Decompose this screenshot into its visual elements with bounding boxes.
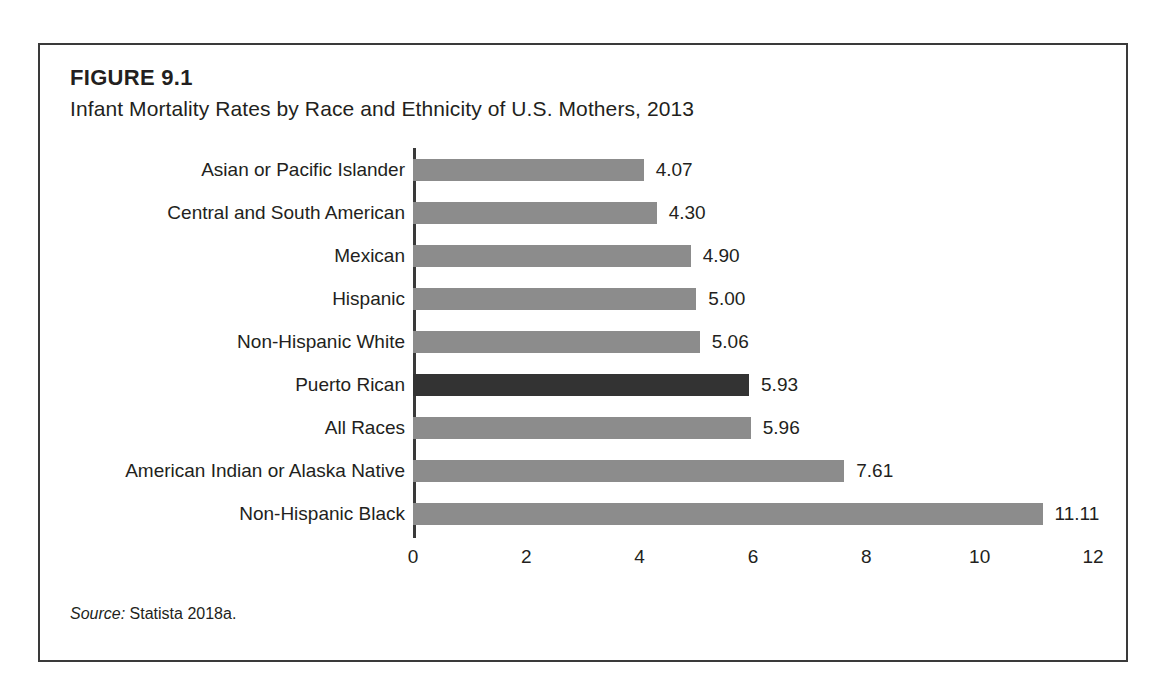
category-label-row: Central and South American	[70, 191, 405, 234]
category-label-row: Hispanic	[70, 277, 405, 320]
bar-value-label: 4.30	[669, 202, 706, 224]
bar-row[interactable]: 4.90	[413, 234, 740, 277]
bar-row[interactable]: 5.00	[413, 277, 745, 320]
category-label-row: All Races	[70, 406, 405, 449]
x-axis-tick-label: 10	[969, 546, 990, 568]
bar[interactable]	[413, 503, 1043, 525]
category-label: Asian or Pacific Islander	[201, 148, 405, 191]
bar[interactable]	[413, 202, 657, 224]
figure-title: Infant Mortality Rates by Race and Ethni…	[70, 97, 694, 121]
category-label: Hispanic	[332, 277, 405, 320]
bar[interactable]	[413, 288, 696, 310]
category-label-row: Non-Hispanic Black	[70, 492, 405, 535]
bar-row[interactable]: 7.61	[413, 449, 893, 492]
bar-highlighted[interactable]	[413, 374, 749, 396]
bar-value-label: 7.61	[856, 460, 893, 482]
figure-number: FIGURE 9.1	[70, 65, 193, 91]
bar-value-label: 5.96	[763, 417, 800, 439]
category-label: Puerto Rican	[295, 363, 405, 406]
figure-content: FIGURE 9.1 Infant Mortality Rates by Rac…	[40, 45, 1126, 660]
x-axis: 024681012	[413, 538, 1093, 578]
category-label-row: Asian or Pacific Islander	[70, 148, 405, 191]
bar[interactable]	[413, 331, 700, 353]
x-axis-tick-label: 2	[521, 546, 532, 568]
bar[interactable]	[413, 417, 751, 439]
bars-area: 4.074.304.905.005.065.935.967.6111.11	[413, 148, 1093, 535]
source-text: Statista 2018a.	[130, 605, 237, 622]
x-axis-tick-label: 6	[748, 546, 759, 568]
category-label-column: Asian or Pacific IslanderCentral and Sou…	[70, 148, 405, 535]
bar-row[interactable]: 4.07	[413, 148, 693, 191]
bar-value-label: 4.90	[703, 245, 740, 267]
bar-value-label: 4.07	[656, 159, 693, 181]
bar-row[interactable]: 11.11	[413, 492, 1099, 535]
category-label: All Races	[325, 406, 405, 449]
x-axis-tick-label: 12	[1082, 546, 1103, 568]
category-label: Mexican	[334, 234, 405, 277]
category-label: Non-Hispanic White	[237, 320, 405, 363]
bar[interactable]	[413, 460, 844, 482]
source-note: Source: Statista 2018a.	[70, 605, 236, 623]
category-label-row: Puerto Rican	[70, 363, 405, 406]
bar[interactable]	[413, 159, 644, 181]
bar-row[interactable]: 5.06	[413, 320, 749, 363]
x-axis-tick-label: 0	[408, 546, 419, 568]
x-axis-tick-label: 8	[861, 546, 872, 568]
source-label: Source:	[70, 605, 125, 622]
bar-value-label: 5.06	[712, 331, 749, 353]
bar-value-label: 5.93	[761, 374, 798, 396]
category-label-row: Mexican	[70, 234, 405, 277]
bar-value-label: 11.11	[1055, 503, 1100, 525]
category-label: Non-Hispanic Black	[239, 492, 405, 535]
category-label-row: American Indian or Alaska Native	[70, 449, 405, 492]
bar-value-label: 5.00	[708, 288, 745, 310]
bar-row[interactable]: 4.30	[413, 191, 706, 234]
bar[interactable]	[413, 245, 691, 267]
x-axis-tick-label: 4	[634, 546, 645, 568]
category-label: Central and South American	[167, 191, 405, 234]
figure-box: FIGURE 9.1 Infant Mortality Rates by Rac…	[38, 43, 1128, 662]
bar-row[interactable]: 5.93	[413, 363, 798, 406]
bar-chart: Asian or Pacific IslanderCentral and Sou…	[40, 148, 1130, 588]
category-label: American Indian or Alaska Native	[125, 449, 405, 492]
bar-row[interactable]: 5.96	[413, 406, 800, 449]
category-label-row: Non-Hispanic White	[70, 320, 405, 363]
